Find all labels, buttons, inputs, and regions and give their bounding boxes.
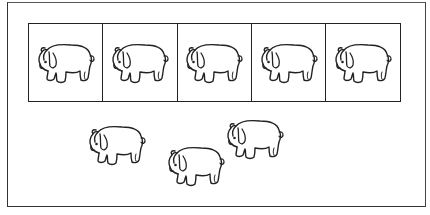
elephant-box-1 <box>28 23 104 102</box>
elephant-icon <box>256 40 322 86</box>
elephant-icon <box>222 116 288 162</box>
elephant-box-2 <box>102 23 178 102</box>
elephant-icon <box>181 40 247 86</box>
elephant-icon <box>107 40 173 86</box>
elephant-box-5 <box>325 23 401 102</box>
elephant-icon <box>163 143 229 189</box>
elephant-box-4 <box>251 23 327 102</box>
elephant-icon <box>33 40 99 86</box>
boxed-elephant-row <box>28 23 401 102</box>
elephant-box-3 <box>177 23 253 102</box>
elephant-icon <box>330 40 396 86</box>
elephant-icon <box>84 122 150 168</box>
